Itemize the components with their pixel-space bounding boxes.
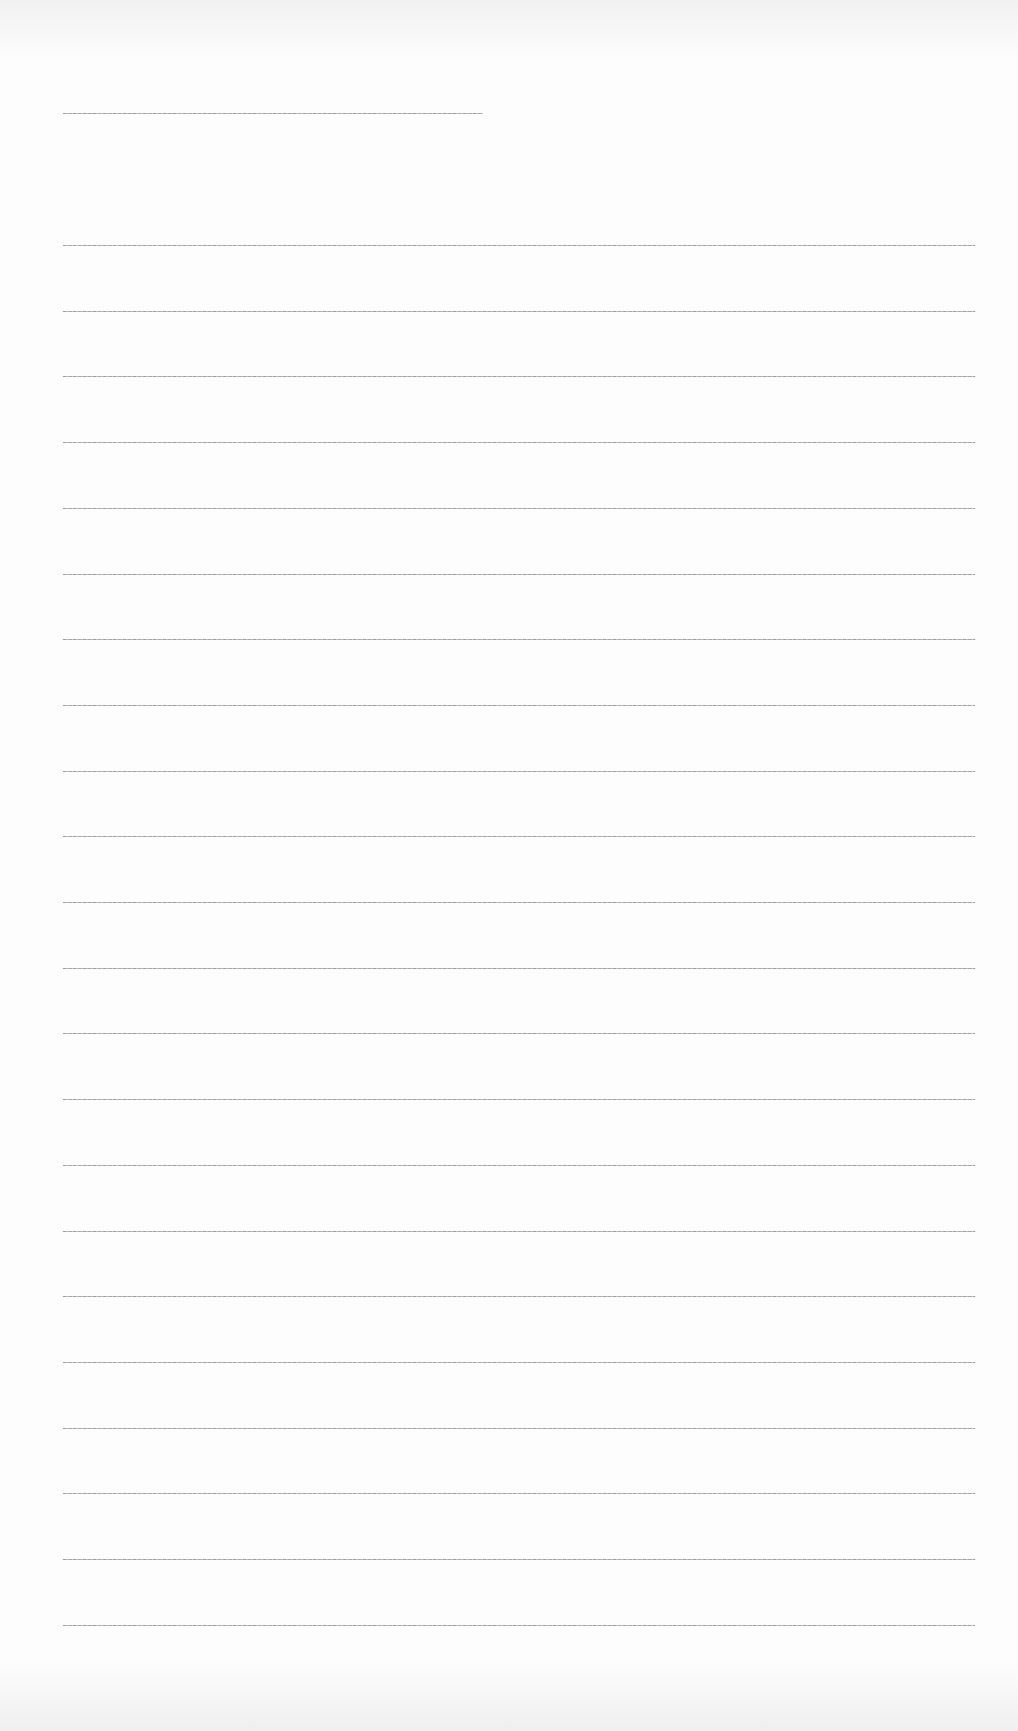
ruled-line [63,1625,975,1626]
ruled-line [63,1296,975,1297]
scan-top-shading [0,0,1018,60]
ruled-line [63,508,975,509]
ruled-line [63,968,975,969]
ruled-line [63,1231,975,1232]
ruled-line [63,1428,975,1429]
ruled-line [63,245,975,246]
ruled-line [63,705,975,706]
ruled-line [63,376,975,377]
ruled-line [63,1362,975,1363]
ruled-line [63,442,975,443]
ruled-line [63,1559,975,1560]
ruled-line [63,771,975,772]
ruled-line [63,311,975,312]
scan-bottom-shading [0,1661,1018,1731]
ruled-line [63,1165,975,1166]
ruled-line [63,1493,975,1494]
ruled-line [63,1033,975,1034]
ruled-line [63,836,975,837]
ruled-line [63,1099,975,1100]
ruled-line [63,574,975,575]
ruled-line [63,639,975,640]
header-rule [63,113,483,114]
ruled-line [63,902,975,903]
